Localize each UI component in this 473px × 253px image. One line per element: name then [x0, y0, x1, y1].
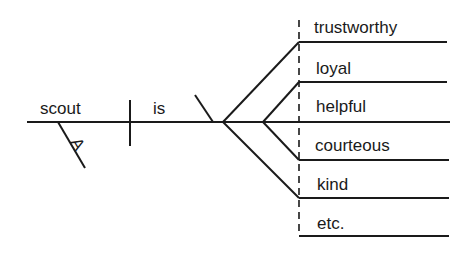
verb-label: is	[153, 99, 165, 118]
fork-branch-kind	[223, 122, 299, 198]
adjective-label: trustworthy	[314, 18, 398, 37]
adjective-label: etc.	[317, 214, 344, 233]
adjective-label: kind	[317, 175, 348, 194]
subject-label: scout	[40, 99, 81, 118]
fork-branch-trustworthy	[223, 42, 299, 122]
adjective-label: courteous	[315, 136, 390, 155]
adjective-label: loyal	[316, 59, 351, 78]
adjective-label: helpful	[316, 97, 366, 116]
verb-complement-divider	[195, 95, 213, 122]
sentence-diagram: scout is A trustworthy loyal helpful cou…	[0, 0, 473, 253]
fork-branch-courteous	[263, 122, 299, 160]
fork-branch-loyal	[263, 82, 299, 122]
article-label: A	[67, 135, 89, 155]
